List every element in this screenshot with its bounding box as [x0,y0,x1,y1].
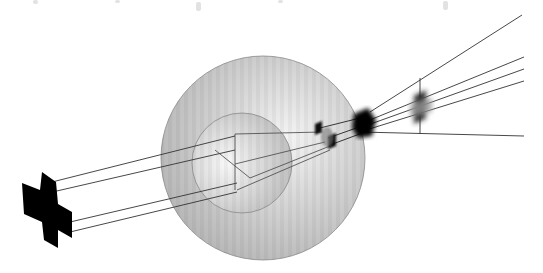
image-2 [352,108,376,138]
faint-marks [33,0,448,11]
image-3 [410,90,432,124]
ray-diagram [0,0,543,273]
diagram-canvas [0,0,543,273]
outgoing-rays [360,15,524,136]
object-cross [22,172,72,248]
inner-sphere [192,113,292,213]
